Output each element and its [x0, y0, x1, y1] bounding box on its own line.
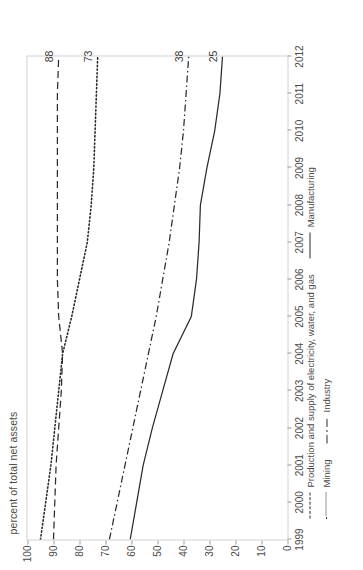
legend-label-manufacturing: Manufacturing: [305, 167, 315, 227]
legend-item-mining[interactable]: Mining: [321, 459, 331, 518]
category-axis-tick-mark: [287, 204, 291, 205]
value-axis-tick-label: 70: [100, 545, 111, 569]
category-axis-tick-mark: [287, 278, 291, 279]
value-axis-tick-label: 100: [22, 545, 33, 569]
series-line: [53, 56, 62, 539]
value-axis-tick-mark: [53, 540, 54, 544]
series-end-value-label: 73: [81, 50, 93, 62]
legend-row-1: Production and supply of electricity, wa…: [302, 48, 318, 518]
series-lines: [27, 56, 287, 539]
solid-line-icon: [309, 232, 311, 258]
series-end-value-label: 38: [172, 50, 184, 62]
legend-item-manufacturing[interactable]: Manufacturing: [305, 167, 315, 258]
dotted-line-icon: [325, 492, 327, 518]
category-axis-tick-mark: [287, 55, 291, 56]
chart-page: percent of total net assets 010203040506…: [0, 0, 363, 570]
value-axis-title: percent of total net assets: [6, 411, 18, 534]
legend-row-2: Mining Industry: [318, 48, 334, 518]
value-axis-tick-mark: [79, 540, 80, 544]
legend-item-industry[interactable]: Industry: [321, 378, 331, 443]
value-axis-tick-mark: [131, 540, 132, 544]
category-axis-tick-mark: [287, 501, 291, 502]
series-end-value-label: 25: [206, 50, 218, 62]
value-axis-tick-mark: [105, 540, 106, 544]
legend-label-production: Production and supply of electricity, wa…: [305, 274, 315, 487]
category-axis-tick-mark: [287, 315, 291, 316]
value-axis-tick-label: 30: [204, 545, 215, 569]
value-axis-tick-mark: [261, 540, 262, 544]
value-axis-tick-label: 20: [230, 545, 241, 569]
legend-label-mining: Mining: [321, 459, 331, 487]
category-axis-tick-mark: [287, 427, 291, 428]
category-axis-tick-label: 1999: [293, 528, 304, 550]
category-axis-tick-mark: [287, 389, 291, 390]
dash-dot-line-icon: [325, 417, 327, 443]
value-axis-tick-label: 90: [48, 545, 59, 569]
legend-label-industry: Industry: [321, 378, 331, 412]
category-axis-tick-mark: [287, 241, 291, 242]
category-axis-tick-mark: [287, 92, 291, 93]
series-end-value-label: 88: [42, 50, 54, 62]
value-axis-tick-label: 0: [282, 545, 293, 569]
value-axis-tick-label: 50: [152, 545, 163, 569]
line-chart-figure: percent of total net assets 010203040506…: [0, 0, 363, 570]
value-axis-tick-mark: [209, 540, 210, 544]
plot-area: [26, 55, 288, 540]
category-axis-tick-mark: [287, 166, 291, 167]
value-axis-tick-mark: [157, 540, 158, 544]
value-axis-tick-label: 10: [256, 545, 267, 569]
value-axis-tick-mark: [235, 540, 236, 544]
category-axis-tick-mark: [287, 464, 291, 465]
value-axis-tick-label: 60: [126, 545, 137, 569]
dashed-line-icon: [309, 492, 311, 518]
chart-legend: Production and supply of electricity, wa…: [302, 48, 334, 518]
category-axis-tick-mark: [287, 352, 291, 353]
series-line: [130, 56, 222, 539]
legend-item-production[interactable]: Production and supply of electricity, wa…: [305, 274, 315, 518]
series-line: [40, 56, 97, 539]
category-axis-tick-mark: [287, 129, 291, 130]
value-axis-tick-mark: [183, 540, 184, 544]
series-line: [109, 56, 188, 539]
value-axis-tick-label: 80: [74, 545, 85, 569]
value-axis-tick-mark: [27, 540, 28, 544]
value-axis-tick-mark: [287, 540, 288, 544]
value-axis-tick-label: 40: [178, 545, 189, 569]
category-axis-tick-mark: [287, 538, 291, 539]
